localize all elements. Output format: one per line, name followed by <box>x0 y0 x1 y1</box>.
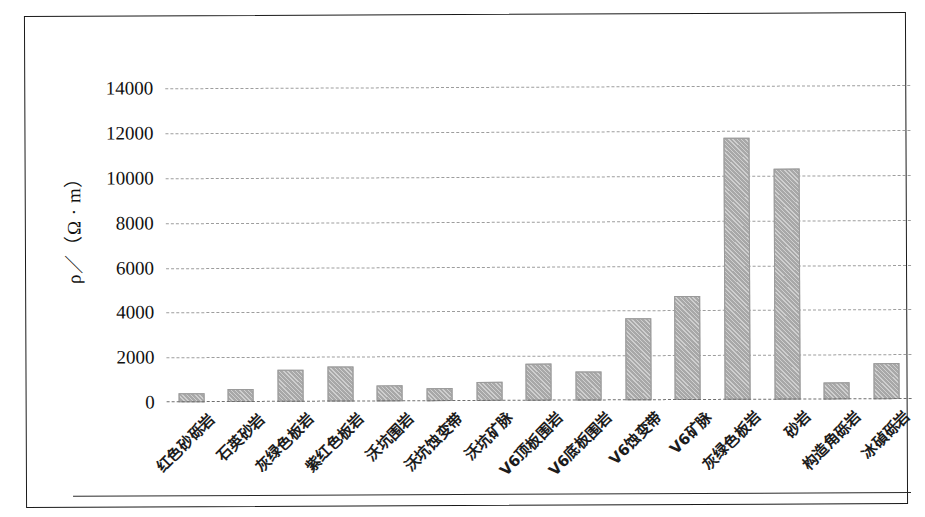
bar[interactable] <box>773 169 800 400</box>
bar-slot <box>364 65 415 401</box>
bar-slot <box>215 66 266 402</box>
bar[interactable] <box>327 367 353 402</box>
bar-slot <box>761 63 812 399</box>
bar[interactable] <box>526 364 552 401</box>
x-axis-labels-group: 红色砂砾岩石英砂岩灰绿色板岩紫红色板岩沃坑围岩沃坑蚀变带沃坑矿脉V6顶板围岩V6… <box>167 405 913 517</box>
bars-group <box>165 63 911 402</box>
bar-slot <box>662 64 713 400</box>
y-axis-tick-label: 14000 <box>63 78 153 100</box>
bar-slot <box>562 64 613 400</box>
bar-slot <box>463 65 514 401</box>
bar-slot <box>165 66 216 402</box>
bar[interactable] <box>476 382 502 401</box>
bar-slot <box>513 65 564 401</box>
plot-area: 14000120001000080006000400020000 <box>165 63 911 402</box>
bar[interactable] <box>724 138 751 400</box>
bar-slot <box>264 66 315 402</box>
y-axis-tick-label: 4000 <box>64 302 154 324</box>
bar[interactable] <box>278 369 304 402</box>
bar-slot <box>413 65 464 401</box>
bar[interactable] <box>675 296 701 400</box>
bar-slot <box>314 65 365 401</box>
x-axis-category-label: V6蚀变带 <box>603 406 665 468</box>
x-axis-category-label: 红色砂砾岩 <box>151 408 219 476</box>
figure-frame: ρ／（Ω · m） 140001200010000800060004000200… <box>24 12 908 508</box>
bar[interactable] <box>824 383 850 400</box>
y-axis-tick-label: 10000 <box>64 167 154 189</box>
y-axis-tick-label: 0 <box>65 391 155 413</box>
bar[interactable] <box>576 372 602 401</box>
x-axis-category-label: 冰碵砾岩 <box>857 405 914 462</box>
bar[interactable] <box>625 318 651 400</box>
x-axis-category-label: 砂岩 <box>778 406 814 442</box>
bar-slot <box>860 63 911 399</box>
bar-slot <box>811 63 862 399</box>
y-axis-tick-label: 8000 <box>64 212 154 234</box>
bar[interactable] <box>874 363 900 399</box>
y-axis-tick-label: 6000 <box>64 257 154 279</box>
figure-skew-wrapper: ρ／（Ω · m） 140001200010000800060004000200… <box>0 0 925 517</box>
bar[interactable] <box>377 386 403 402</box>
bar-slot <box>711 64 762 400</box>
bar-slot <box>612 64 663 400</box>
y-axis-tick-label: 2000 <box>64 347 154 369</box>
y-axis-tick-label: 12000 <box>63 123 153 145</box>
